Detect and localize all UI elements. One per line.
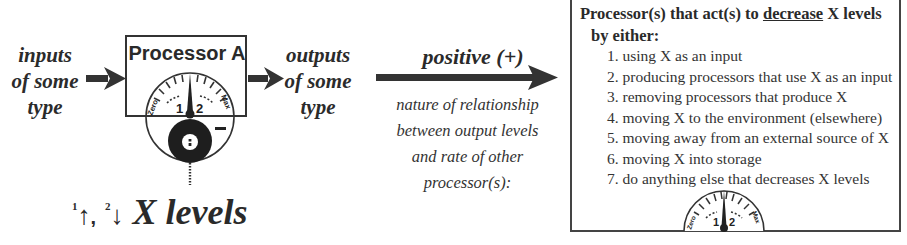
- x-levels-text: X levels: [133, 192, 248, 232]
- down-arrow-icon: ↓: [111, 200, 124, 230]
- up-arrow-icon: ↑: [78, 200, 91, 230]
- outputs-label-line-3: type: [282, 94, 354, 120]
- processor-gauge-icon: 1 2 Zero Max: [140, 70, 240, 185]
- box-gauge-mark-2: 2: [729, 216, 735, 228]
- outputs-label-line-1: outputs: [282, 42, 354, 68]
- list-item: 1. using X as an input: [607, 46, 892, 67]
- heading-part-3: X levels: [823, 4, 882, 23]
- decrease-box-heading: Processor(s) that act(s) to decrease X l…: [580, 3, 900, 25]
- relationship-description-line-2: between output levels: [375, 118, 560, 144]
- relationship-description: nature of relationship between output le…: [375, 92, 560, 196]
- list-item: 5. moving away from an external source o…: [607, 128, 892, 149]
- heading-underlined: decrease: [763, 4, 823, 23]
- list-item: 4. moving X to the environment (elsewher…: [607, 108, 892, 129]
- inputs-label-line-2: of some: [6, 68, 84, 94]
- relationship-description-line-3: and rate of other: [375, 144, 560, 170]
- gauge-mark-2: 2: [196, 101, 203, 116]
- processor-a-title: Processor A: [127, 42, 247, 65]
- gauge-mark-1: 1: [176, 101, 183, 116]
- separator: ,: [91, 206, 97, 228]
- inputs-label: inputs of some type: [6, 42, 84, 120]
- list-item: 6. moving X into storage: [607, 149, 892, 170]
- gauge-max-label: Max: [219, 93, 233, 111]
- x-levels-label: 1↑, 2↓ X levels: [72, 186, 292, 237]
- decrease-box-subheading: by either:: [591, 25, 659, 47]
- relationship-description-line-4: processor(s):: [375, 170, 560, 196]
- outputs-label: outputs of some type: [282, 42, 354, 120]
- box-gauge-mark-1: 1: [713, 216, 719, 228]
- list-item: 2. producing processors that use X as an…: [607, 67, 892, 88]
- input-arrow-icon: [86, 66, 128, 90]
- relationship-description-line-1: nature of relationship: [375, 92, 560, 118]
- output-arrow-icon: [248, 66, 286, 90]
- relationship-arrow-icon: [376, 64, 560, 90]
- list-item: 3. removing processors that produce X: [607, 87, 892, 108]
- inputs-label-line-3: type: [6, 94, 84, 120]
- inputs-label-line-1: inputs: [6, 42, 84, 68]
- heading-part-1: Processor(s) that act(s) to: [580, 4, 763, 23]
- decrease-box-gauge-icon: 1 2 Zero Max: [682, 188, 766, 232]
- outputs-label-line-2: of some: [282, 68, 354, 94]
- list-item: 7. do anything else that decreases X lev…: [607, 169, 892, 190]
- decrease-methods-list: 1. using X as an input 2. producing proc…: [607, 46, 892, 190]
